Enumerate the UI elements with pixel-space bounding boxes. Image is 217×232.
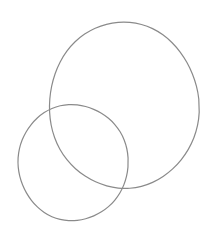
- canvas-background: [0, 0, 217, 232]
- drawing-canvas: Two overlapping circles A line drawing o…: [0, 0, 217, 232]
- two-circles-figure: Two overlapping circles A line drawing o…: [0, 0, 217, 232]
